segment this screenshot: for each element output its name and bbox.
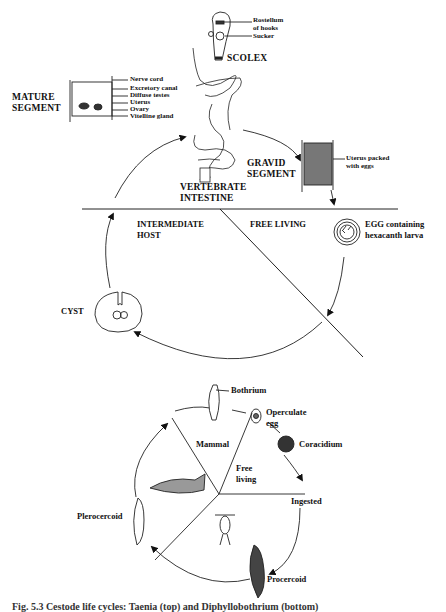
- operculate-egg-label-1: Operculate: [266, 408, 306, 417]
- arrow-gravid-to-egg: [331, 190, 334, 204]
- divider-diagonal: [220, 209, 363, 357]
- arrow-coracidium-down: [284, 455, 302, 480]
- coracidium-illustration: [278, 436, 294, 452]
- sector-line-fish: [155, 494, 219, 560]
- cyst-illustration: [95, 292, 142, 332]
- mammal-label: Mammal: [196, 440, 229, 449]
- arrow-ingested-to-procercoid: [270, 508, 300, 574]
- strobila-illustration: [193, 48, 241, 182]
- mature-segment-label-2: SEGMENT: [12, 104, 61, 114]
- hexacanth-egg-illustration: [334, 219, 360, 245]
- figure-caption: Fig. 5.3 Cestode life cycles: Taenia (to…: [12, 601, 318, 612]
- plerocercoid-label: Plerocercoid: [77, 512, 122, 521]
- bothrium-label: Bothrium: [231, 386, 266, 395]
- arrow-worm-to-gravid: [243, 130, 300, 160]
- arrow-egg-to-ingested: [328, 257, 344, 315]
- part-nerve-cord: Nerve cord: [130, 76, 163, 83]
- operculate-egg-label-2: egg: [266, 419, 278, 428]
- host-label-2: INTESTINE: [180, 194, 234, 204]
- part-vitelline-gland: Vitelline gland: [130, 113, 174, 120]
- intermediate-host-label-2: HOST: [137, 231, 161, 240]
- coracidium-label: Coracidium: [299, 440, 342, 449]
- plerocercoid-illustration: [134, 498, 144, 545]
- free-living-label: FREE LIVING: [250, 220, 306, 229]
- free-living-label-2: living: [236, 475, 256, 484]
- mature-segment-illustration: [70, 76, 128, 122]
- gravid-segment-label-1: GRAVID: [247, 159, 286, 169]
- uterus-packed-label-2: with eggs: [346, 163, 374, 170]
- procercoid-illustration: [250, 545, 265, 598]
- scolex-label: SCOLEX: [227, 54, 267, 64]
- procercoid-label: Procercoid: [267, 575, 306, 584]
- intermediate-host-label-1: INTERMEDIATE: [137, 220, 204, 229]
- arrow-cyst-to-host: [106, 214, 113, 288]
- host-label-1: VERTEBRATE: [180, 183, 246, 193]
- gravid-segment-label-2: SEGMENT: [247, 170, 296, 180]
- mature-segment-label-1: MATURE: [12, 93, 55, 103]
- egg-label-1: EGG containing: [365, 220, 424, 229]
- arrow-host-to-worm: [115, 137, 185, 198]
- arrow-to-cyst: [135, 322, 322, 359]
- copepod-illustration: [215, 515, 235, 545]
- egg-label-2: hexacanth larva: [365, 231, 423, 240]
- ingested-label: Ingested: [291, 497, 322, 506]
- scolex-part-sucker: Sucker: [253, 33, 274, 40]
- arc-top: [232, 410, 246, 413]
- arrow-procercoid-to-plerocercoid: [152, 547, 250, 582]
- fish-illustration: [150, 474, 205, 493]
- arc-top-left: [175, 407, 210, 411]
- free-living-label-1: Free: [236, 464, 252, 473]
- gravid-segment-illustration: [302, 140, 345, 192]
- cyst-label: CYST: [61, 307, 84, 316]
